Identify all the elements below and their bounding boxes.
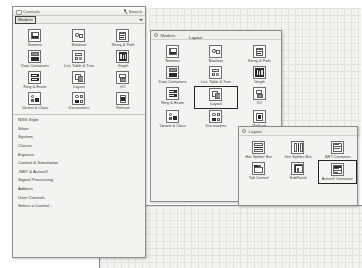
palette-item-label: String & Path (248, 59, 271, 63)
category-item-nxg-style[interactable]: NXG Style (13, 116, 145, 125)
numeric-control-icon (166, 45, 179, 58)
back-arrow-icon[interactable] (242, 129, 246, 133)
category-item-select-a-control[interactable]: Select a Control... (13, 202, 145, 211)
palette-item-label: Decorations (69, 106, 90, 110)
palette-item-label: Variant & Class (159, 124, 186, 128)
palette-item-string-path[interactable]: String & Path (238, 43, 281, 64)
palette-item-tab-control[interactable]: Tab Control (239, 160, 278, 183)
palette-item-label: List, Table & Tree (64, 64, 94, 68)
graph-icon (116, 50, 129, 63)
io-icon (116, 71, 129, 84)
palette-item-numeric[interactable]: Numeric (13, 27, 57, 48)
variant-class-icon (28, 92, 41, 105)
palette-item-label: Numeric (28, 43, 42, 47)
palette-item-hor-splitter-bar[interactable]: Hor Splitter Bar (239, 139, 278, 160)
drag-grip-icon[interactable] (16, 9, 21, 14)
category-item-silver[interactable]: Silver (13, 125, 145, 134)
layout-icon (209, 88, 222, 101)
palette-item-label: Data Containers (21, 64, 49, 68)
palette-item-label: Data Containers (159, 80, 187, 84)
palette-item-refnum[interactable]: Refnum (101, 91, 145, 112)
palette-item-label: ActiveX Container (322, 177, 353, 181)
layout-subpalette-grid: Hor Splitter BarVert Splitter Bar.NET Co… (239, 136, 357, 186)
palette-item-label: Variant & Class (22, 106, 49, 110)
palette-item-i-o[interactable]: I/O (101, 70, 145, 91)
chevron-down-icon[interactable] (139, 19, 143, 21)
net-container-icon (331, 141, 344, 154)
palette-item-graph[interactable]: Graph (101, 48, 145, 69)
category-item-signal-processing[interactable]: Signal Processing (13, 176, 145, 185)
search-label: Search (129, 9, 142, 14)
palette-item-label: I/O (120, 85, 125, 89)
decorations-icon (209, 110, 222, 123)
modern-palette-grid: NumericBooleanString & PathData Containe… (13, 24, 145, 114)
modern-subpalette-grid: NumericBooleanString & PathData Containe… (151, 40, 281, 132)
palette-item-list-table-tree[interactable]: List, Table & Tree (194, 64, 237, 85)
palette-item-net-container[interactable]: .NET Container (318, 139, 357, 160)
palette-item-label: Boolean (72, 43, 86, 47)
palette-item-label: Graph (254, 80, 265, 84)
palette-item-label: String & Path (111, 43, 134, 47)
front-panel-grid-right (281, 8, 361, 138)
palette-item-ring-enum[interactable]: Ring & Enum (151, 86, 194, 109)
palette-item-boolean[interactable]: Boolean (194, 43, 237, 64)
palette-item-variant-class[interactable]: Variant & Class (13, 91, 57, 112)
refnum-icon (116, 92, 129, 105)
refnum-icon (253, 110, 266, 123)
palette-item-decorations[interactable]: Decorations (194, 109, 237, 130)
palette-item-ring-enum[interactable]: Ring & Enum (13, 70, 57, 91)
palette-item-variant-class[interactable]: Variant & Class (151, 109, 194, 130)
category-item-addons[interactable]: Addons (13, 185, 145, 194)
palette-item-string-path[interactable]: String & Path (101, 27, 145, 48)
boolean-control-icon (72, 29, 85, 42)
breadcrumb[interactable]: Modern (13, 16, 145, 24)
string-path-icon (116, 29, 129, 42)
palette-item-subpanel[interactable]: SubPanel (278, 160, 317, 183)
palette-item-graph[interactable]: Graph (238, 64, 281, 85)
layout-subpalette-window[interactable]: Layout Hor Splitter BarVert Splitter Bar… (238, 126, 358, 206)
category-item-classic[interactable]: Classic (13, 142, 145, 151)
breadcrumb-current[interactable]: Modern (15, 16, 36, 24)
category-item-express[interactable]: Express (13, 151, 145, 160)
data-containers-icon (28, 50, 41, 63)
layout-subpalette-header[interactable]: Layout (239, 127, 357, 136)
list-table-tree-icon (209, 66, 222, 79)
category-item-user-controls[interactable]: User Controls (13, 194, 145, 203)
category-item-control-simulation[interactable]: Control & Simulation (13, 159, 145, 168)
palette-item-label: Hor Splitter Bar (245, 155, 272, 159)
palette-item-list-table-tree[interactable]: List, Table & Tree (57, 48, 101, 69)
numeric-control-icon (28, 29, 41, 42)
back-arrow-icon[interactable] (154, 33, 158, 37)
palette-item-layout[interactable]: Layout (194, 86, 237, 109)
palette-item-vert-splitter-bar[interactable]: Vert Splitter Bar (278, 139, 317, 160)
ring-enum-icon (28, 71, 41, 84)
palette-item-label: I/O (257, 101, 262, 105)
controls-palette-window[interactable]: Controls Search Modern NumericBooleanStr… (12, 6, 146, 258)
palette-item-label: Decorations (206, 124, 227, 128)
list-table-tree-icon (72, 50, 85, 63)
layout-tooltip: Layout (189, 35, 202, 40)
palette-item-data-containers[interactable]: Data Containers (13, 48, 57, 69)
palette-item-i-o[interactable]: I/O (238, 86, 281, 109)
ring-enum-icon (166, 87, 179, 100)
palette-item-label: Graph (118, 64, 129, 68)
palette-title: Controls (23, 9, 40, 14)
category-item-system[interactable]: System (13, 133, 145, 142)
modern-subpalette-header[interactable]: Modern (151, 31, 281, 40)
palette-item-numeric[interactable]: Numeric (151, 43, 194, 64)
decorations-icon (72, 92, 85, 105)
subpanel-icon (291, 162, 304, 175)
palette-item-decorations[interactable]: Decorations (57, 91, 101, 112)
palette-item-layout[interactable]: Layout (57, 70, 101, 91)
palette-item-label: Tab Control (249, 176, 269, 180)
palette-item-data-containers[interactable]: Data Containers (151, 64, 194, 85)
palette-item-label: Boolean (209, 59, 223, 63)
palette-item-label: Layout (73, 85, 85, 89)
search-button[interactable]: Search (124, 9, 142, 14)
palette-item-label: Refnum (116, 106, 130, 110)
palette-item-boolean[interactable]: Boolean (57, 27, 101, 48)
category-item-net-activex[interactable]: .NET & ActiveX (13, 168, 145, 177)
io-icon (253, 87, 266, 100)
palette-item-activex-container[interactable]: ActiveX Container (318, 160, 357, 183)
magnifier-icon (124, 9, 128, 13)
